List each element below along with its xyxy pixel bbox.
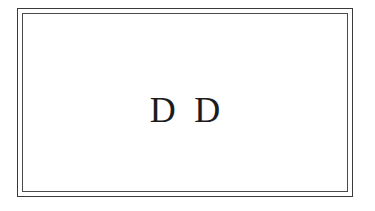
monogram-container: D D: [23, 88, 347, 132]
monogram-text: D D: [145, 92, 225, 128]
certificate-canvas: D D: [0, 0, 375, 211]
frame-interior-plate: D D: [23, 14, 347, 191]
